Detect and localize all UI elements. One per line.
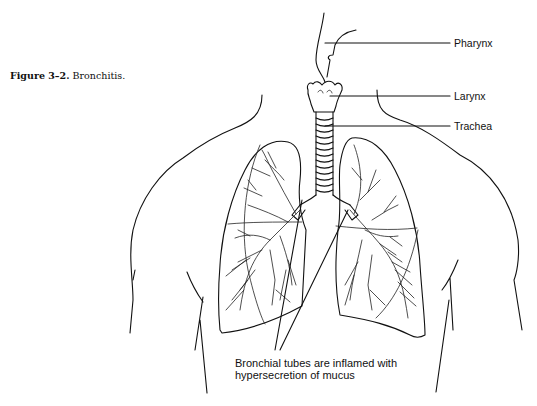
armpit-right bbox=[436, 260, 458, 392]
bronchitis-annotation: Bronchial tubes are inflamed with hypers… bbox=[235, 357, 397, 381]
annotation-pointer bbox=[275, 200, 348, 350]
label-larynx: Larynx bbox=[454, 90, 486, 102]
annotation-line-1: Bronchial tubes are inflamed with bbox=[235, 357, 397, 369]
trachea bbox=[292, 112, 358, 220]
right-bronchial-tree bbox=[345, 145, 416, 318]
larynx-detail bbox=[318, 90, 332, 93]
left-lung-fissure bbox=[228, 222, 302, 224]
right-lung-outline bbox=[336, 138, 425, 337]
armpit-left bbox=[187, 272, 207, 393]
respiratory-illustration bbox=[0, 0, 537, 406]
annotation-line-2: hypersecretion of mucus bbox=[235, 369, 397, 381]
pharynx-outline bbox=[316, 13, 325, 82]
larynx-outline bbox=[307, 81, 342, 112]
right-lung-fissure bbox=[336, 226, 417, 229]
label-trachea: Trachea bbox=[454, 120, 492, 132]
arm-left-notch bbox=[133, 270, 135, 280]
left-bronchial-tree bbox=[226, 150, 300, 310]
pharynx-outline-2 bbox=[327, 30, 356, 77]
right-lung-oblique bbox=[376, 230, 418, 318]
label-pharynx: Pharynx bbox=[454, 37, 493, 49]
